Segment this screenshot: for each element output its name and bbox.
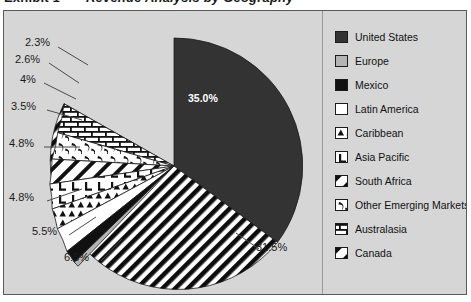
leader-europe [58, 47, 88, 65]
legend-swatch-south-africa [335, 175, 348, 187]
legend-label-europe: Europe [355, 56, 389, 67]
pie-label-latin-america: 4% [20, 74, 36, 85]
legend-item-other-emerging-markets[interactable]: Other Emerging Markets [335, 193, 466, 217]
pie-label-europe: 2.3% [25, 37, 50, 48]
legend-swatch-caribbean [335, 127, 348, 139]
legend-item-europe[interactable]: Europe [335, 49, 466, 73]
legend-item-mexico[interactable]: Mexico [335, 73, 466, 97]
legend-swatch-canada [335, 247, 348, 259]
legend-label-south-africa: South Africa [355, 176, 412, 187]
legend-item-asia-pacific[interactable]: Asia Pacific [335, 145, 466, 169]
legend-label-mexico: Mexico [355, 80, 388, 91]
legend-label-australasia: Australasia [355, 224, 407, 235]
chart-frame: 2.3% 2.6% 4% 3.5% 4.8% 4.8% 5.5% 6.5% 31… [3, 10, 467, 295]
legend-item-australasia[interactable]: Australasia [335, 217, 466, 241]
exhibit-label: Exhibit 1 [4, 0, 60, 5]
pie-label-united-states: 35.0% [188, 93, 218, 104]
legend-swatch-australasia [335, 223, 348, 235]
pie-plot-area: 2.3% 2.6% 4% 3.5% 4.8% 4.8% 5.5% 6.5% 31… [4, 11, 322, 294]
legend-swatch-other-emerging-markets [335, 199, 348, 211]
legend-swatch-united-states [335, 31, 348, 43]
legend-swatch-latin-america [335, 103, 348, 115]
exhibit-title-strip: Exhibit 1Revenue Analysis by Geography [0, 0, 471, 9]
legend-label-asia-pacific: Asia Pacific [355, 152, 409, 163]
legend-label-caribbean: Caribbean [355, 128, 403, 139]
legend-item-south-africa[interactable]: South Africa [335, 169, 466, 193]
pie-label-australasia: 6.5% [64, 252, 89, 263]
legend-label-canada: Canada [355, 248, 392, 259]
pie-label-asia-pacific: 4.8% [9, 138, 34, 149]
pie-label-caribbean: 3.5% [11, 101, 36, 112]
pie-label-south-africa: 4.8% [9, 192, 34, 203]
legend-item-latin-america[interactable]: Latin America [335, 97, 466, 121]
legend-swatch-asia-pacific [335, 151, 348, 163]
legend-label-other-emerging-markets: Other Emerging Markets [355, 200, 467, 211]
legend-label-united-states: United States [355, 32, 418, 43]
legend-item-canada[interactable]: Canada [335, 241, 466, 265]
pie-label-canada: 31.5% [256, 242, 287, 253]
legend-item-caribbean[interactable]: Caribbean [335, 121, 466, 145]
legend-swatch-mexico [335, 79, 348, 91]
pie-label-other-emerging-markets: 5.5% [32, 226, 57, 237]
leader-mexico [49, 63, 79, 83]
pie-label-mexico: 2.6% [15, 54, 40, 65]
exhibit-title: Exhibit 1Revenue Analysis by Geography [4, 0, 294, 5]
legend-item-united-states[interactable]: United States [335, 25, 466, 49]
chart-legend: United States Europe Mexico Latin Americ… [322, 11, 466, 294]
leader-latin-america [44, 83, 76, 99]
exhibit-caption: Revenue Analysis by Geography [86, 0, 294, 5]
legend-swatch-europe [335, 55, 348, 67]
legend-label-latin-america: Latin America [355, 104, 419, 115]
chart-screenshot: Exhibit 1Revenue Analysis by Geography [0, 0, 471, 302]
